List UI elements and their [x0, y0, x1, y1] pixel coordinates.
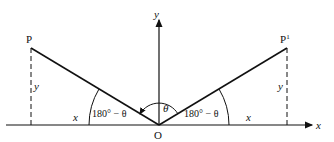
label-O: O	[154, 129, 162, 141]
label-x-right: x	[245, 111, 251, 123]
label-y-axis: y	[153, 8, 159, 20]
diagram: P P1 O x y y y x x 180° − θ 180° − θ θ	[0, 0, 334, 142]
label-P-prime: P1	[280, 33, 290, 45]
label-angle-left: 180° − θ	[92, 108, 127, 119]
label-theta: θ	[163, 102, 169, 114]
label-x-left: x	[72, 111, 78, 123]
arc-left	[89, 89, 99, 125]
label-y-right: y	[277, 80, 283, 92]
label-y-left: y	[33, 80, 39, 92]
label-angle-right: 180° − θ	[184, 108, 219, 119]
arc-right	[219, 89, 229, 125]
label-P: P	[26, 33, 32, 45]
label-x-axis: x	[315, 119, 321, 131]
